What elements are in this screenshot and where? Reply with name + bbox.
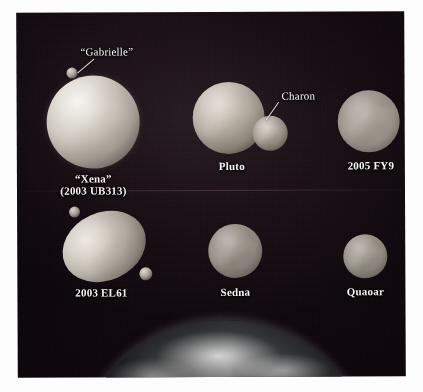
planet-2003-el61 <box>51 198 157 295</box>
object-label-2005-fy9: 2005 FY9 <box>333 159 406 171</box>
surface-texture <box>193 82 265 154</box>
earth-limb <box>74 319 375 378</box>
object-designation-xena: (2003 UB313) <box>43 184 144 196</box>
surface-texture <box>343 234 387 278</box>
callout-label-gabrielle: “Gabrielle” <box>80 45 133 57</box>
comparison-photo: “Gabrielle” Charon “Xena” (2003 UB313) P… <box>16 11 406 378</box>
planet-sedna <box>208 224 262 278</box>
surface-texture <box>253 116 288 151</box>
object-label-quaoar: Quaoar <box>329 285 401 297</box>
earth-terminator-shading <box>74 319 375 378</box>
surface-texture <box>208 224 262 278</box>
moon-2003-el61-a <box>69 207 80 218</box>
object-label-xena: “Xena” <box>43 172 144 184</box>
object-label-2003-el61: 2003 EL61 <box>53 286 149 298</box>
moon-2003-el61-b <box>139 267 152 280</box>
leader-line-gabrielle <box>77 58 94 73</box>
surface-texture <box>46 75 139 168</box>
surface-texture <box>51 198 157 295</box>
planet-xena <box>46 75 139 168</box>
planet-pluto <box>193 82 265 154</box>
page-canvas: “Gabrielle” Charon “Xena” (2003 UB313) P… <box>0 0 423 392</box>
object-label-sedna: Sedna <box>200 286 270 298</box>
moon-charon <box>253 116 288 151</box>
surface-texture <box>338 90 400 152</box>
object-label-pluto: Pluto <box>197 160 267 172</box>
callout-label-charon: Charon <box>282 90 316 102</box>
planet-quaoar <box>343 234 387 278</box>
moon-gabrielle <box>66 68 77 79</box>
planet-2005-fy9 <box>338 90 400 152</box>
